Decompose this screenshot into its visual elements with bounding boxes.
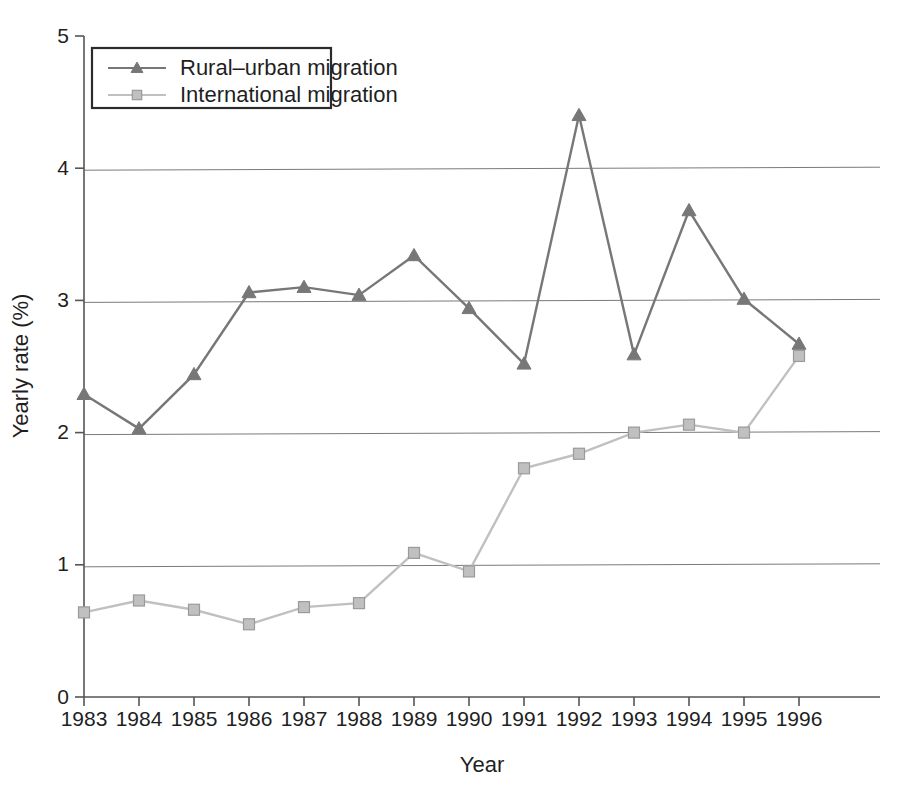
gridline bbox=[84, 299, 880, 302]
x-tick-label: 1984 bbox=[116, 707, 163, 730]
square-marker bbox=[299, 602, 310, 613]
x-tick-label: 1991 bbox=[501, 707, 548, 730]
x-tick-label: 1996 bbox=[776, 707, 823, 730]
series-line bbox=[84, 356, 799, 624]
triangle-marker bbox=[627, 348, 641, 360]
series-rural-urban-migration bbox=[77, 108, 806, 434]
x-tick-label: 1986 bbox=[226, 707, 273, 730]
x-tick-label: 1992 bbox=[556, 707, 603, 730]
triangle-marker bbox=[407, 248, 421, 260]
series-line bbox=[84, 115, 799, 428]
y-axis-title: Yearly rate (%) bbox=[8, 294, 33, 439]
gridline bbox=[84, 432, 880, 435]
chart-figure: 012345 198319841985198619871988198919901… bbox=[0, 0, 905, 788]
series-international-migration bbox=[79, 350, 805, 629]
triangle-marker bbox=[737, 292, 751, 304]
x-tick-label: 1985 bbox=[171, 707, 218, 730]
data-series-group bbox=[77, 108, 806, 629]
x-axis-ticks: 1983198419851986198719881989199019911992… bbox=[61, 697, 823, 730]
square-marker bbox=[739, 427, 750, 438]
square-marker bbox=[464, 566, 475, 577]
square-marker bbox=[519, 463, 530, 474]
axes bbox=[84, 36, 880, 697]
x-tick-label: 1993 bbox=[611, 707, 658, 730]
gridlines bbox=[84, 167, 880, 567]
square-marker bbox=[134, 595, 145, 606]
y-tick-label: 5 bbox=[57, 24, 69, 47]
square-marker bbox=[684, 419, 695, 430]
y-tick-label: 0 bbox=[57, 685, 69, 708]
y-tick-label: 3 bbox=[57, 288, 69, 311]
x-tick-label: 1988 bbox=[336, 707, 383, 730]
square-marker bbox=[629, 427, 640, 438]
legend-label: International migration bbox=[180, 82, 398, 107]
square-marker bbox=[794, 350, 805, 361]
y-tick-label: 2 bbox=[57, 420, 69, 443]
x-tick-label: 1989 bbox=[391, 707, 438, 730]
x-axis-title: Year bbox=[460, 752, 504, 777]
square-marker bbox=[574, 448, 585, 459]
square-marker bbox=[409, 547, 420, 558]
line-chart: 012345 198319841985198619871988198919901… bbox=[0, 0, 905, 788]
chart-legend: Rural–urban migrationInternational migra… bbox=[92, 48, 398, 108]
triangle-marker bbox=[77, 387, 91, 399]
y-tick-label: 4 bbox=[57, 156, 69, 179]
triangle-marker bbox=[297, 280, 311, 292]
legend-label: Rural–urban migration bbox=[180, 55, 398, 80]
square-marker bbox=[244, 619, 255, 630]
x-tick-label: 1983 bbox=[61, 707, 108, 730]
square-marker bbox=[79, 607, 90, 618]
gridline bbox=[84, 564, 880, 567]
x-tick-label: 1995 bbox=[721, 707, 768, 730]
square-marker bbox=[132, 90, 141, 99]
y-axis-ticks: 012345 bbox=[57, 24, 84, 708]
y-tick-label: 1 bbox=[57, 552, 69, 575]
gridline bbox=[84, 167, 880, 170]
square-marker bbox=[189, 604, 200, 615]
x-tick-label: 1990 bbox=[446, 707, 493, 730]
x-tick-label: 1987 bbox=[281, 707, 328, 730]
x-tick-label: 1994 bbox=[666, 707, 713, 730]
triangle-marker bbox=[572, 108, 586, 120]
square-marker bbox=[354, 598, 365, 609]
triangle-marker bbox=[682, 204, 696, 216]
